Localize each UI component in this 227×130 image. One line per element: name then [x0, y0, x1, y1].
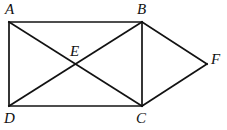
vertex-label-e: E: [70, 44, 79, 59]
vertex-label-d: D: [4, 111, 15, 126]
figure-canvas: [0, 0, 227, 130]
vertex-label-f: F: [211, 52, 220, 67]
segment-group: [9, 22, 207, 106]
vertex-label-c: C: [136, 111, 146, 126]
segment-cf: [142, 64, 207, 106]
vertex-label-b: B: [137, 2, 146, 17]
vertex-label-a: A: [5, 2, 14, 17]
segment-bf: [142, 22, 207, 64]
geometry-figure: A B E F D C: [0, 0, 227, 130]
